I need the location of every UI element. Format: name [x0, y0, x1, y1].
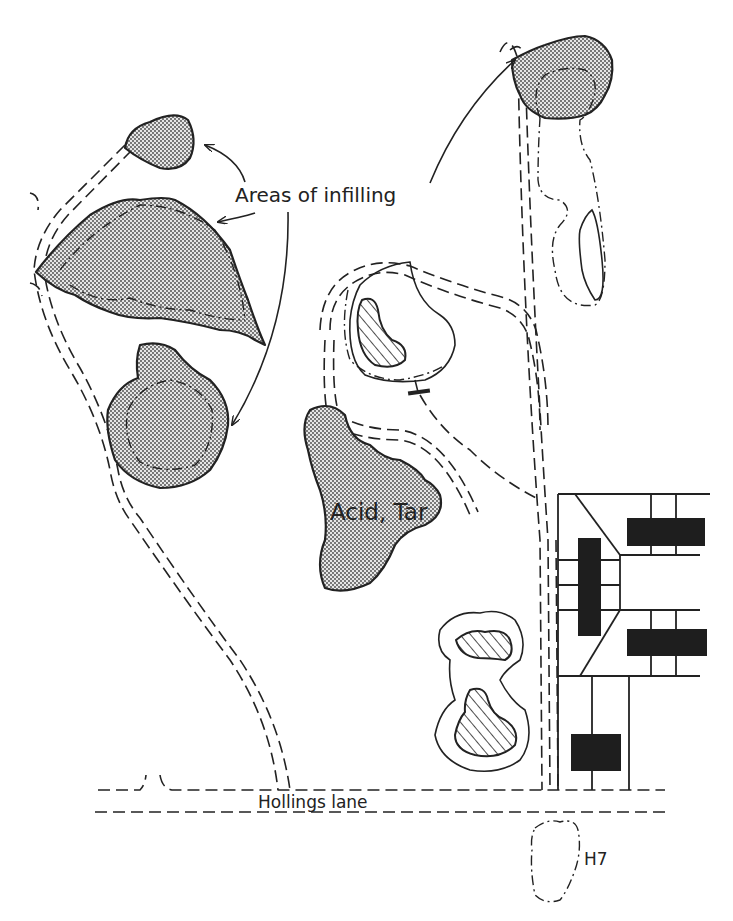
building-middle: [627, 629, 707, 656]
building-west: [578, 538, 601, 636]
infill-area-top-left: [125, 115, 194, 168]
building-complex: [558, 494, 710, 790]
hollings-lane-road: [95, 775, 665, 812]
infill-area-top-right: [512, 36, 612, 119]
h7-site-outline: [531, 821, 579, 902]
infill-area-triangle: [36, 198, 265, 345]
north-track: [500, 43, 558, 790]
areas-of-infilling-label: Areas of infilling: [235, 183, 396, 207]
site-map: Acid, Tar H7 Areas of infilling Hollings…: [0, 0, 733, 921]
acid-tar-label: Acid, Tar: [330, 499, 428, 525]
hollings-lane-label: Hollings lane: [258, 792, 368, 812]
lower-lagoons: [435, 612, 529, 772]
central-lagoon: [344, 262, 455, 396]
building-north: [627, 518, 705, 546]
h7-label: H7: [584, 849, 608, 869]
building-south: [571, 734, 621, 771]
infill-area-lower-left: [107, 343, 228, 488]
